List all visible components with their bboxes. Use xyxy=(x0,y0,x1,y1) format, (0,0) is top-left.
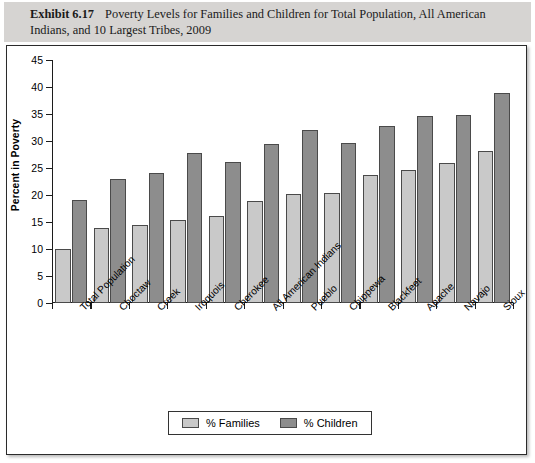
y-tick-label: 15 xyxy=(31,216,43,228)
exhibit-caption: Exhibit 6.17 Poverty Levels for Families… xyxy=(30,6,522,38)
legend-item-families: % Families xyxy=(182,417,260,429)
y-tick-label: 5 xyxy=(37,270,43,282)
exhibit-number: Exhibit 6.17 xyxy=(30,6,94,22)
y-tick-label: 40 xyxy=(31,81,43,93)
x-tick-label: Creek xyxy=(155,305,163,313)
bar xyxy=(456,115,472,303)
y-tick-label: 30 xyxy=(31,135,43,147)
legend-item-children: % Children xyxy=(280,417,358,429)
x-tick-label: Choctaw xyxy=(117,305,125,313)
y-tick-label: 20 xyxy=(31,189,43,201)
legend-label-children: % Children xyxy=(304,417,358,429)
y-tick-label: 25 xyxy=(31,162,43,174)
bar xyxy=(187,153,203,303)
bar xyxy=(417,116,433,303)
x-tick-label: Navajo xyxy=(462,305,470,313)
y-tick-label: 0 xyxy=(37,297,43,309)
y-tick-label: 45 xyxy=(31,54,43,66)
x-tick-label: All American Indians xyxy=(270,305,278,313)
exhibit-caption-band: Exhibit 6.17 Poverty Levels for Families… xyxy=(4,2,531,42)
y-axis-title: Percent in Poverty xyxy=(10,95,21,235)
exhibit-title: Poverty Levels for Families and Children… xyxy=(30,6,522,38)
y-tick-label: 10 xyxy=(31,243,43,255)
x-tick-label: Total Population xyxy=(78,305,86,313)
bar xyxy=(341,143,357,303)
bar xyxy=(72,200,88,303)
x-tick-label: Pueblo xyxy=(309,305,317,313)
legend-swatch-families-icon xyxy=(182,418,199,428)
x-tick-label: Iroquois xyxy=(193,305,201,313)
legend-swatch-children-icon xyxy=(280,418,297,428)
bar xyxy=(55,249,71,303)
legend-label-families: % Families xyxy=(206,417,260,429)
y-tick-label: 35 xyxy=(31,108,43,120)
bar xyxy=(225,162,241,303)
x-tick-label: Blackfeet xyxy=(386,305,394,313)
x-tick-label: Cherokee xyxy=(232,305,240,313)
x-tick-label: Apache xyxy=(424,305,432,313)
bar xyxy=(478,151,494,303)
x-tick-label: Sioux xyxy=(501,305,509,313)
x-tick-label: Chippewa xyxy=(347,305,355,313)
x-axis-labels: Total PopulationChoctawCreekIroquoisCher… xyxy=(52,305,513,400)
chart-legend: % Families % Children xyxy=(168,411,372,435)
exhibit-figure: Exhibit 6.17 Poverty Levels for Families… xyxy=(0,0,535,463)
bar xyxy=(494,93,510,303)
